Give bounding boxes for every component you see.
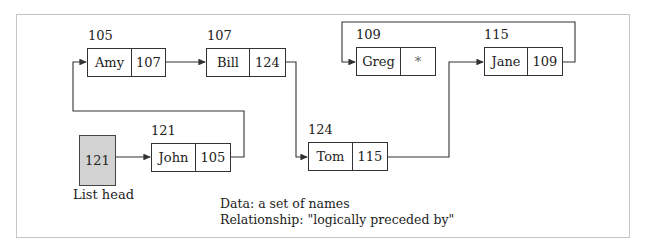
node-next-pointer: 107 [132, 49, 165, 76]
node-name: John [152, 144, 196, 171]
node-greg: Greg * [356, 47, 436, 76]
node-tom: Tom 115 [308, 142, 388, 171]
node-address-john: 121 [151, 124, 176, 138]
node-name: Bill [207, 49, 250, 76]
node-address-bill: 107 [207, 29, 232, 43]
node-next-pointer: 105 [196, 144, 230, 171]
node-next-pointer: 115 [353, 143, 387, 170]
list-head-box: 121 [79, 135, 116, 186]
node-next-pointer: 109 [528, 48, 562, 75]
node-name: Amy [88, 49, 132, 76]
node-jane: Jane 109 [484, 47, 563, 76]
node-address-greg: 109 [356, 28, 381, 42]
node-bill: Bill 124 [206, 48, 286, 77]
node-next-pointer-null: * [401, 48, 435, 75]
arrow-tom-to-jane [387, 62, 483, 157]
arrow-bill-to-tom [285, 62, 307, 157]
list-head-label: List head [73, 187, 134, 202]
node-name: Jane [485, 48, 528, 75]
node-address-tom: 124 [308, 123, 333, 137]
caption-data: Data: a set of names [220, 196, 350, 211]
node-amy: Amy 107 [87, 48, 166, 77]
node-address-jane: 115 [484, 28, 509, 42]
caption-relationship: Relationship: "logically preceded by" [220, 212, 454, 227]
node-name: Greg [357, 48, 401, 75]
node-address-amy: 105 [88, 29, 113, 43]
node-john: John 105 [151, 143, 231, 172]
node-name: Tom [309, 143, 353, 170]
node-next-pointer: 124 [250, 49, 285, 76]
